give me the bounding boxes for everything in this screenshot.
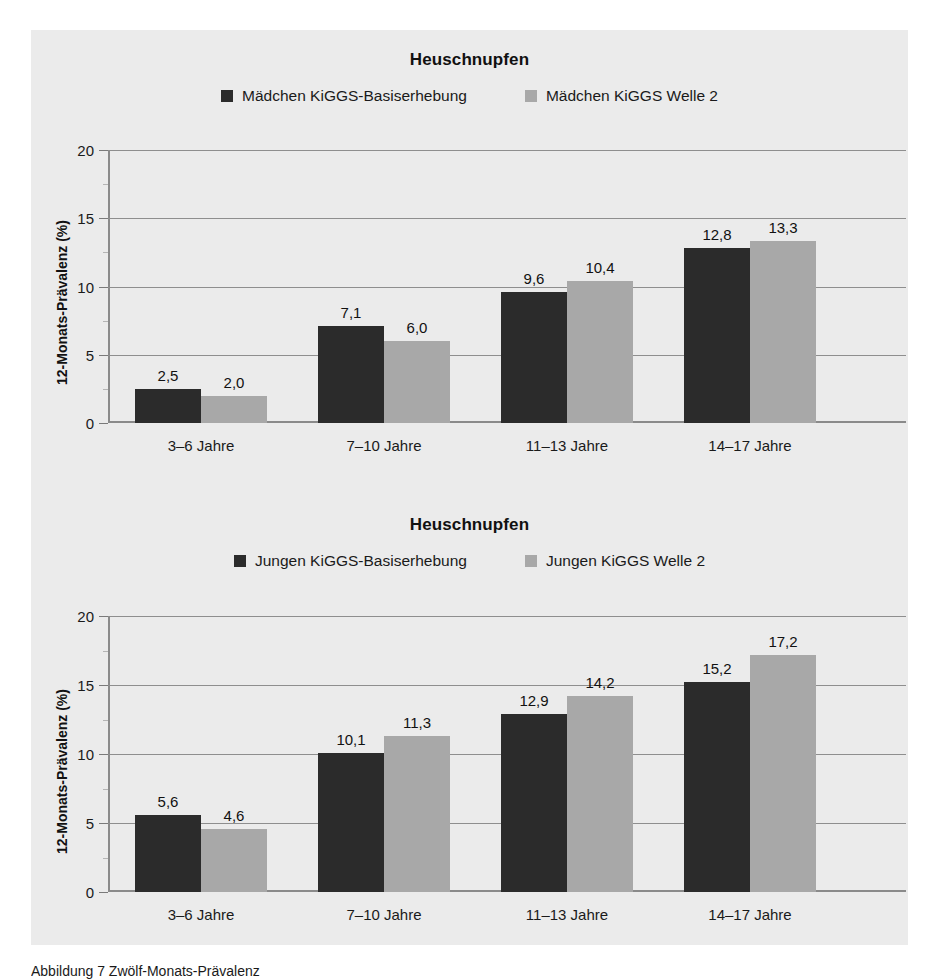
y-axis-tick	[99, 218, 108, 219]
bar-value-label: 17,2	[768, 633, 797, 650]
y-axis-minor-tick	[103, 184, 108, 185]
bar-value-label: 12,8	[702, 226, 731, 243]
y-axis-minor-tick	[103, 321, 108, 322]
chart-panel-jungen: Heuschnupfen Jungen KiGGS-Basiserhebung …	[31, 490, 908, 945]
bar-value-label: 11,3	[403, 714, 431, 731]
legend-label-welle2: Mädchen KiGGS Welle 2	[546, 87, 718, 105]
bar-value-label: 5,6	[158, 793, 179, 810]
bar-value-label: 10,1	[336, 731, 365, 748]
chart-title-jungen: Heuschnupfen	[31, 515, 908, 535]
bar: 10,1	[318, 753, 384, 892]
y-axis-tick	[99, 823, 108, 824]
bar-value-label: 12,9	[519, 692, 548, 709]
chart-legend-maedchen: Mädchen KiGGS-Basiserhebung Mädchen KiGG…	[31, 87, 908, 105]
y-axis-minor-tick	[103, 651, 108, 652]
y-axis-tick	[99, 616, 108, 617]
y-axis-tick-label: 15	[77, 677, 94, 694]
bar: 15,2	[684, 682, 750, 892]
bar-value-label: 2,5	[158, 367, 179, 384]
legend-swatch-icon-welle2	[525, 555, 537, 567]
bar-value-label: 9,6	[524, 270, 545, 287]
y-axis-tick	[99, 685, 108, 686]
y-axis-minor-tick	[103, 720, 108, 721]
chart-title-maedchen: Heuschnupfen	[31, 50, 908, 70]
y-axis-tick	[99, 355, 108, 356]
y-axis-tick-label: 20	[77, 142, 94, 159]
x-axis-category-label: 7–10 Jahre	[346, 437, 421, 454]
y-axis-tick	[99, 150, 108, 151]
legend-item-welle2: Jungen KiGGS Welle 2	[525, 552, 705, 570]
legend-label-baseline: Mädchen KiGGS-Basiserhebung	[242, 87, 467, 105]
x-axis-category-label: 7–10 Jahre	[346, 906, 421, 923]
bar: 10,4	[567, 281, 633, 423]
bar: 12,8	[684, 248, 750, 423]
y-axis-minor-tick	[103, 252, 108, 253]
legend-item-welle2: Mädchen KiGGS Welle 2	[525, 87, 718, 105]
bar: 7,1	[318, 326, 384, 423]
chart-panel-maedchen: Heuschnupfen Mädchen KiGGS-Basiserhebung…	[31, 30, 908, 490]
legend-item-baseline: Jungen KiGGS-Basiserhebung	[234, 552, 467, 570]
bar: 14,2	[567, 696, 633, 892]
y-axis-tick-label: 0	[86, 415, 94, 432]
bar: 4,6	[201, 829, 267, 892]
y-axis-tick-label: 0	[86, 884, 94, 901]
bar: 11,3	[384, 736, 450, 892]
gridline	[108, 616, 906, 617]
bar: 12,9	[501, 714, 567, 892]
bar-value-label: 2,0	[224, 374, 245, 391]
bar: 2,5	[135, 389, 201, 423]
y-axis-tick-label: 20	[77, 608, 94, 625]
figure-container: Heuschnupfen Mädchen KiGGS-Basiserhebung…	[0, 0, 929, 980]
gridline	[108, 150, 906, 151]
bar: 17,2	[750, 655, 816, 892]
y-axis-tick-label: 10	[77, 746, 94, 763]
x-axis-category-label: 14–17 Jahre	[708, 437, 791, 454]
bar-value-label: 4,6	[224, 807, 245, 824]
x-axis-category-label: 3–6 Jahre	[168, 906, 235, 923]
y-axis-label-jungen: 12-Monats-Prävalenz (%)	[54, 689, 70, 854]
bar: 9,6	[501, 292, 567, 423]
y-axis-tick-label: 15	[77, 210, 94, 227]
bar-value-label: 13,3	[768, 219, 797, 236]
y-axis-tick	[99, 754, 108, 755]
bar: 6,0	[384, 341, 450, 423]
y-axis-tick	[99, 423, 108, 424]
y-axis-tick	[99, 892, 108, 893]
y-axis-label-maedchen: 12-Monats-Prävalenz (%)	[54, 220, 70, 385]
bar: 2,0	[201, 396, 267, 423]
x-axis-category-label: 11–13 Jahre	[526, 437, 608, 454]
bar-value-label: 7,1	[341, 304, 362, 321]
legend-label-welle2: Jungen KiGGS Welle 2	[546, 552, 705, 570]
y-axis-tick-label: 5	[86, 815, 94, 832]
x-axis-category-label: 14–17 Jahre	[708, 906, 791, 923]
y-axis-minor-tick	[103, 389, 108, 390]
legend-swatch-icon-baseline	[234, 555, 246, 567]
bar: 13,3	[750, 241, 816, 423]
plot-area-maedchen: 12-Monats-Prävalenz (%) 051015202,52,07,…	[108, 150, 888, 423]
legend-item-baseline: Mädchen KiGGS-Basiserhebung	[221, 87, 467, 105]
y-axis-tick-label: 10	[77, 278, 94, 295]
bar-value-label: 14,2	[585, 674, 614, 691]
x-axis-category-label: 11–13 Jahre	[526, 906, 608, 923]
bar-value-label: 10,4	[585, 259, 614, 276]
bar-value-label: 15,2	[702, 660, 731, 677]
y-axis-minor-tick	[103, 858, 108, 859]
plot-area-jungen: 12-Monats-Prävalenz (%) 051015205,64,610…	[108, 616, 888, 892]
x-axis-category-label: 3–6 Jahre	[168, 437, 235, 454]
y-axis-minor-tick	[103, 789, 108, 790]
legend-label-baseline: Jungen KiGGS-Basiserhebung	[255, 552, 467, 570]
bar-value-label: 6,0	[407, 319, 428, 336]
legend-swatch-icon-welle2	[525, 90, 537, 102]
y-axis-tick	[99, 287, 108, 288]
y-axis-tick-label: 5	[86, 346, 94, 363]
bar: 5,6	[135, 815, 201, 892]
figure-caption: Abbildung 7 Zwölf-Monats-Prävalenz	[31, 963, 631, 980]
chart-legend-jungen: Jungen KiGGS-Basiserhebung Jungen KiGGS …	[31, 552, 908, 570]
legend-swatch-icon-baseline	[221, 90, 233, 102]
